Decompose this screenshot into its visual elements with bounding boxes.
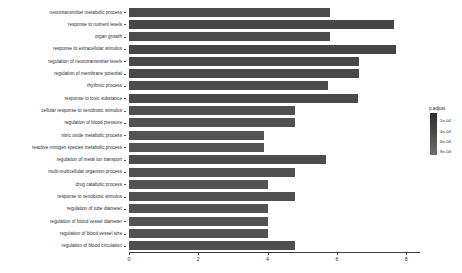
x-axis-tick-label: 0 <box>128 256 131 262</box>
bar <box>129 20 394 29</box>
y-axis-label: reactive nitrogen species metabolic proc… <box>32 145 122 150</box>
bar-fill <box>129 204 268 213</box>
legend-tick-label: 6e-04 <box>440 139 451 144</box>
bars-container <box>129 6 420 252</box>
bar <box>129 155 326 164</box>
legend-tick-labels: 2e-044e-046e-048e-04 <box>437 113 462 155</box>
legend-tick-label: 4e-04 <box>440 128 451 133</box>
legend-tick-mark <box>437 120 439 121</box>
x-axis-tick <box>129 252 130 255</box>
bar-fill <box>129 94 358 103</box>
bar <box>129 57 359 66</box>
y-axis-tick <box>124 37 126 38</box>
bar-fill <box>129 81 328 90</box>
bar <box>129 106 295 115</box>
bar-fill <box>129 155 326 164</box>
x-axis-tick <box>406 252 407 255</box>
y-axis-label: response to toxic substance <box>65 96 122 101</box>
y-axis-label: rhythmic process <box>87 83 122 88</box>
bar <box>129 204 268 213</box>
bar-fill <box>129 168 295 177</box>
y-axis-tick <box>124 24 126 25</box>
y-axis-tick <box>124 197 126 198</box>
bar <box>129 8 330 17</box>
plot-panel <box>129 6 420 252</box>
x-axis-line <box>129 252 420 253</box>
x-axis-tick <box>198 252 199 255</box>
bar <box>129 143 264 152</box>
y-axis-label: response to nutrient levels <box>68 22 122 27</box>
y-axis-tick <box>124 160 126 161</box>
legend-p-adjust: p.adjust 2e-044e-046e-048e-04 <box>428 106 462 155</box>
legend-tick-label: 8e-04 <box>440 148 451 153</box>
bar <box>129 180 268 189</box>
bar <box>129 32 330 41</box>
y-axis-tick <box>124 234 126 235</box>
x-axis-tick-label: 4 <box>266 256 269 262</box>
y-axis-tick <box>124 111 126 112</box>
bar-fill <box>129 217 268 226</box>
bar <box>129 81 328 90</box>
x-axis-tick-label: 8 <box>405 256 408 262</box>
bar <box>129 229 268 238</box>
bar-fill <box>129 241 295 250</box>
bar <box>129 192 295 201</box>
legend-gradient-bar <box>430 113 437 155</box>
bar <box>129 94 358 103</box>
bar <box>129 131 264 140</box>
y-axis-label: drug catabolic process <box>76 182 122 187</box>
legend-colorbar-wrap: 2e-044e-046e-048e-04 <box>428 113 462 155</box>
bar <box>129 168 295 177</box>
bar-fill <box>129 131 264 140</box>
y-axis-tick <box>124 135 126 136</box>
y-axis-label: regulation of blood vessel size <box>60 231 122 236</box>
x-axis-tick-label: 6 <box>335 256 338 262</box>
legend-tick-mark <box>437 141 439 142</box>
legend-tick-label: 2e-04 <box>440 118 451 123</box>
bar <box>129 217 268 226</box>
bar-fill <box>129 45 396 54</box>
y-axis-tick <box>124 123 126 124</box>
bar-fill <box>129 143 264 152</box>
bar <box>129 45 396 54</box>
x-axis-tick-label: 2 <box>197 256 200 262</box>
bar-fill <box>129 180 268 189</box>
bar-fill <box>129 69 359 78</box>
y-axis-label: organ growth <box>95 34 122 39</box>
y-axis-label: regulation of blood vessel diameter <box>50 219 122 224</box>
go-enrichment-bar-chart: neurotransmitter metabolic processrespon… <box>0 0 462 273</box>
y-axis-tick <box>124 221 126 222</box>
bar-fill <box>129 106 295 115</box>
y-axis-labels: neurotransmitter metabolic processrespon… <box>0 6 126 252</box>
bar-fill <box>129 32 330 41</box>
y-axis-label: response to extracellular stimulus <box>53 46 122 51</box>
bar <box>129 241 295 250</box>
y-axis-tick <box>124 86 126 87</box>
y-axis-label: regulation of tube diameter <box>67 206 122 211</box>
x-axis-tick <box>268 252 269 255</box>
bar-fill <box>129 57 359 66</box>
y-axis-tick <box>124 74 126 75</box>
y-axis-label: regulation of membrane potential <box>54 71 122 76</box>
y-axis-tick <box>124 61 126 62</box>
bar-fill <box>129 20 394 29</box>
y-axis-label: regulation of blood circulation <box>62 243 122 248</box>
y-axis-tick <box>124 147 126 148</box>
legend-tick-mark <box>437 131 439 132</box>
x-axis-tick <box>337 252 338 255</box>
y-axis-tick <box>124 12 126 13</box>
y-axis-label: regulation of blood pressure <box>64 120 122 125</box>
y-axis-label: regulation of metal ion transport <box>57 157 122 162</box>
y-axis-tick <box>124 246 126 247</box>
y-axis-tick <box>124 49 126 50</box>
y-axis-label: regulation of neurotransmitter levels <box>48 59 122 64</box>
y-axis-label: multi-multicellular organism process <box>48 169 122 174</box>
bar <box>129 118 295 127</box>
bar <box>129 69 359 78</box>
y-axis-tick <box>124 209 126 210</box>
legend-title: p.adjust <box>428 106 462 112</box>
y-axis-label: neurotransmitter metabolic process <box>50 10 122 15</box>
legend-tick-mark <box>437 151 439 152</box>
y-axis-tick <box>124 98 126 99</box>
bar-fill <box>129 8 330 17</box>
